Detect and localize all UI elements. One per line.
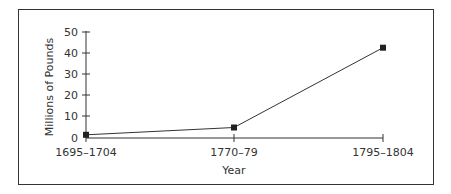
y-tick-label: 30	[64, 68, 78, 81]
y-tick-label: 10	[64, 110, 78, 123]
data-line	[86, 48, 383, 135]
y-tick-label: 40	[64, 47, 78, 60]
y-tick-label: 50	[64, 26, 78, 39]
data-point-marker	[231, 125, 237, 131]
y-axis-title: Millions of Pounds	[43, 38, 56, 137]
line-chart: 50 40 30 20 10 0 1695–1704 1770–79 1795–…	[0, 0, 451, 194]
x-tick-label: 1795–1804	[352, 146, 414, 159]
x-axis-title: Year	[221, 164, 246, 177]
data-point-marker	[380, 45, 386, 51]
data-point-marker	[83, 132, 89, 138]
y-tick-label: 0	[71, 132, 78, 145]
y-tick-label: 20	[64, 89, 78, 102]
x-tick-label: 1770–79	[210, 146, 258, 159]
x-tick-label: 1695–1704	[55, 146, 117, 159]
